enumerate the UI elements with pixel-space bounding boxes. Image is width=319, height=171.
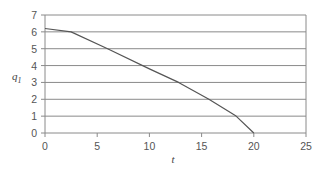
y-tick-label: 3	[31, 76, 37, 88]
y-tick-label: 5	[31, 43, 37, 55]
x-tick-label: 10	[144, 140, 156, 152]
y-tick-label: 2	[31, 93, 37, 105]
y-axis-ticks: 01234567	[31, 9, 45, 139]
data-series	[45, 29, 254, 134]
x-tick-label: 20	[248, 140, 260, 152]
y-tick-label: 0	[31, 127, 37, 139]
series-line-q1	[45, 29, 254, 134]
x-tick-label: 25	[300, 140, 312, 152]
x-axis-label: t	[171, 153, 175, 165]
y-tick-label: 6	[31, 26, 37, 38]
x-tick-label: 15	[196, 140, 208, 152]
line-chart: 01234567 0510152025 q1 t	[0, 0, 319, 171]
plot-frame	[45, 15, 306, 133]
x-tick-label: 5	[94, 140, 100, 152]
y-axis-label: q1	[12, 70, 22, 85]
y-tick-label: 1	[31, 110, 37, 122]
grid-lines	[45, 15, 306, 133]
x-axis-ticks: 0510152025	[42, 133, 312, 152]
y-tick-label: 4	[31, 60, 37, 72]
x-tick-label: 0	[42, 140, 48, 152]
y-tick-label: 7	[31, 9, 37, 21]
